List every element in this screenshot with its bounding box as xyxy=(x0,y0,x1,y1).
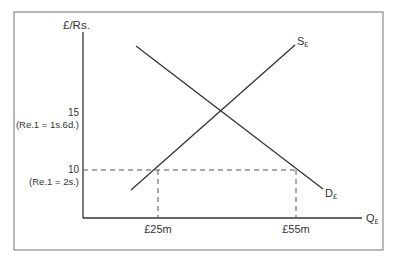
x-axis-label: Q£ xyxy=(366,212,379,225)
supply-curve xyxy=(131,45,295,190)
y-tick-15: 15 xyxy=(68,107,80,118)
x-tick-55m: £55m xyxy=(282,223,310,235)
exchange-rate-diagram: £/Rs. 15 (Re.1 = 1s.6d.) 10 (Re.1 = 2s.)… xyxy=(0,0,394,257)
supply-label: S£ xyxy=(297,35,308,48)
demand-label: D£ xyxy=(325,187,337,200)
y-tick-10: 10 xyxy=(68,164,80,175)
y-axis-label: £/Rs. xyxy=(63,19,90,31)
y-tick-15-note: (Re.1 = 1s.6d.) xyxy=(16,119,79,130)
y-tick-10-note: (Re.1 = 2s.) xyxy=(29,176,79,187)
demand-curve xyxy=(136,46,323,189)
x-tick-25m: £25m xyxy=(144,223,172,235)
